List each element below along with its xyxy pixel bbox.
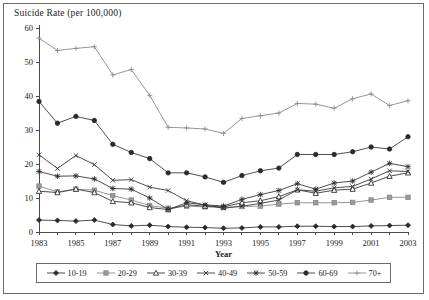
marker-square bbox=[295, 201, 299, 205]
legend-item-70+[interactable]: 70+ bbox=[347, 268, 382, 278]
marker-square bbox=[314, 201, 318, 205]
marker-plus bbox=[55, 48, 60, 53]
marker-diamond bbox=[239, 225, 244, 230]
x-tick-label: 1983 bbox=[31, 238, 48, 248]
marker-diamond bbox=[313, 224, 318, 229]
marker-square bbox=[387, 195, 391, 199]
legend-marker-cross-icon bbox=[196, 268, 216, 278]
marker-star bbox=[258, 192, 264, 198]
x-tick-label: 1987 bbox=[104, 238, 121, 248]
marker-diamond bbox=[295, 224, 300, 229]
marker-circle bbox=[314, 152, 318, 156]
marker-star bbox=[350, 178, 356, 184]
marker-circle bbox=[332, 152, 336, 156]
marker-star bbox=[253, 270, 259, 276]
marker-star bbox=[36, 169, 42, 175]
marker-star bbox=[92, 176, 98, 182]
legend-item-30-39[interactable]: 30-39 bbox=[146, 268, 187, 278]
y-tick-label: 10 bbox=[25, 193, 34, 203]
line-chart-plot: 0102030405060198319851987198919911993199… bbox=[0, 0, 429, 300]
legend-label: 30-39 bbox=[168, 269, 187, 278]
legend-item-10-19[interactable]: 10-19 bbox=[46, 268, 87, 278]
x-tick-label: 1999 bbox=[326, 238, 343, 248]
marker-diamond bbox=[276, 224, 281, 229]
marker-circle bbox=[129, 150, 133, 154]
legend-item-20-29[interactable]: 20-29 bbox=[96, 268, 137, 278]
marker-square bbox=[369, 198, 373, 202]
marker-circle bbox=[184, 171, 188, 175]
marker-square bbox=[406, 195, 410, 199]
legend-label: 70+ bbox=[369, 269, 382, 278]
marker-star bbox=[110, 186, 116, 192]
legend-label: 10-19 bbox=[68, 269, 87, 278]
marker-star bbox=[202, 202, 208, 208]
marker-diamond bbox=[147, 223, 152, 228]
marker-plus bbox=[295, 101, 300, 106]
marker-circle bbox=[258, 169, 262, 173]
legend-marker-diamond-icon bbox=[46, 268, 66, 278]
legend-label: 40-49 bbox=[218, 269, 237, 278]
marker-square bbox=[277, 202, 281, 206]
marker-circle bbox=[37, 99, 41, 103]
marker-circle bbox=[166, 171, 170, 175]
marker-plus bbox=[369, 91, 374, 96]
legend-item-60-69[interactable]: 60-69 bbox=[296, 268, 337, 278]
marker-star bbox=[387, 161, 393, 167]
marker-plus bbox=[313, 102, 318, 107]
legend-label: 60-69 bbox=[318, 269, 337, 278]
marker-star bbox=[147, 195, 153, 201]
marker-circle bbox=[111, 142, 115, 146]
marker-diamond bbox=[387, 223, 392, 228]
marker-diamond bbox=[92, 218, 97, 223]
marker-cross bbox=[74, 153, 78, 157]
marker-plus bbox=[332, 106, 337, 111]
y-tick-label: 40 bbox=[25, 91, 34, 101]
marker-circle bbox=[350, 150, 354, 154]
marker-circle bbox=[92, 118, 96, 122]
marker-square bbox=[332, 201, 336, 205]
marker-circle bbox=[304, 271, 308, 275]
marker-plus bbox=[405, 98, 410, 103]
y-tick-label: 20 bbox=[25, 159, 34, 169]
y-tick-label: 50 bbox=[25, 57, 34, 67]
marker-circle bbox=[55, 121, 59, 125]
x-tick-label: 1997 bbox=[289, 238, 306, 248]
marker-plus bbox=[73, 46, 78, 51]
x-tick-label: 1995 bbox=[252, 238, 269, 248]
marker-diamond bbox=[73, 219, 78, 224]
marker-diamond bbox=[53, 271, 58, 276]
y-tick-label: 0 bbox=[29, 227, 33, 237]
series-line-60-69 bbox=[39, 101, 408, 182]
marker-star bbox=[313, 186, 319, 192]
series-10-19 bbox=[37, 218, 411, 231]
marker-star bbox=[55, 173, 61, 179]
marker-circle bbox=[369, 145, 373, 149]
marker-diamond bbox=[37, 218, 42, 223]
marker-circle bbox=[74, 114, 78, 118]
marker-plus bbox=[36, 36, 41, 41]
marker-square bbox=[104, 271, 108, 275]
legend-label: 20-29 bbox=[118, 269, 137, 278]
legend-marker-triangle-icon bbox=[146, 268, 166, 278]
marker-plus bbox=[276, 110, 281, 115]
marker-plus bbox=[202, 126, 207, 131]
marker-circle bbox=[406, 135, 410, 139]
marker-diamond bbox=[369, 223, 374, 228]
marker-diamond bbox=[258, 224, 263, 229]
legend-item-40-49[interactable]: 40-49 bbox=[196, 268, 237, 278]
marker-plus bbox=[354, 270, 359, 275]
marker-diamond bbox=[184, 225, 189, 230]
marker-star bbox=[73, 173, 79, 179]
marker-diamond bbox=[55, 218, 60, 223]
x-tick-label: 1993 bbox=[215, 238, 232, 248]
legend-marker-star-icon bbox=[246, 268, 266, 278]
marker-square bbox=[350, 200, 354, 204]
marker-triangle bbox=[405, 170, 410, 175]
marker-diamond bbox=[332, 224, 337, 229]
marker-diamond bbox=[166, 224, 171, 229]
marker-star bbox=[128, 186, 134, 192]
marker-star bbox=[184, 200, 190, 206]
marker-diamond bbox=[110, 222, 115, 227]
legend-item-50-59[interactable]: 50-59 bbox=[246, 268, 287, 278]
x-tick-label: 1989 bbox=[141, 238, 158, 248]
